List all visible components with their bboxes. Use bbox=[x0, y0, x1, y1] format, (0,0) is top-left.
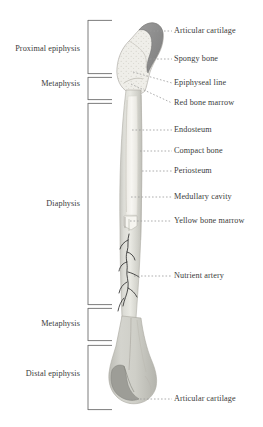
label-distal-epiphysis: Distal epiphysis bbox=[26, 369, 80, 378]
long-bone-illustration bbox=[0, 0, 263, 427]
label-yellow-bone-marrow: Yellow bone marrow bbox=[174, 216, 245, 225]
label-medullary-cavity: Medullary cavity bbox=[174, 192, 232, 201]
diaphysis-art bbox=[118, 90, 142, 318]
label-proximal-epiphysis: Proximal epiphysis bbox=[15, 44, 80, 53]
bracket-metaphysis-distal bbox=[88, 308, 112, 341]
label-metaphysis-proximal: Metaphysis bbox=[41, 79, 80, 88]
region-brackets bbox=[88, 20, 112, 410]
label-epiphyseal-line: Epiphyseal line bbox=[174, 78, 226, 87]
label-compact-bone: Compact bone bbox=[174, 146, 223, 155]
distal-epiphysis-art bbox=[109, 316, 157, 404]
label-spongy-bone: Spongy bone bbox=[174, 54, 218, 63]
bracket-metaphysis-proximal bbox=[88, 77, 112, 100]
label-red-bone-marrow: Red bone marrow bbox=[174, 98, 234, 107]
label-diaphysis: Diaphysis bbox=[46, 199, 80, 208]
label-nutrient-artery: Nutrient artery bbox=[174, 271, 224, 280]
label-periosteum: Periosteum bbox=[174, 166, 212, 175]
label-articular-cartilage-proximal: Articular cartilage bbox=[174, 26, 236, 35]
proximal-epiphysis-art bbox=[117, 23, 163, 95]
label-endosteum: Endosteum bbox=[174, 125, 212, 134]
bracket-distal-epiphysis bbox=[88, 345, 112, 410]
diagram-canvas: Proximal epiphysis Metaphysis Diaphysis … bbox=[0, 0, 263, 427]
label-metaphysis-distal: Metaphysis bbox=[41, 319, 80, 328]
bracket-diaphysis bbox=[88, 103, 112, 305]
label-articular-cartilage-distal: Articular cartilage bbox=[174, 394, 236, 403]
bracket-proximal-epiphysis bbox=[88, 20, 112, 74]
